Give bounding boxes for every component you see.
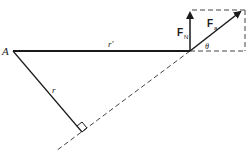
line-of-action	[56, 51, 190, 151]
applied-force-arrow	[190, 12, 240, 51]
normal-force-subscript: N	[184, 34, 188, 40]
normal-force-label: F	[177, 27, 183, 38]
applied-force-label: F	[207, 18, 213, 29]
point-a-label: A	[1, 45, 9, 57]
torque-diagram: A r′ r F N F a θ	[0, 0, 249, 155]
r-prime-label: r′	[108, 39, 115, 49]
r-label: r	[52, 85, 56, 95]
angle-theta-label: θ	[205, 42, 209, 51]
r-line	[13, 51, 82, 132]
